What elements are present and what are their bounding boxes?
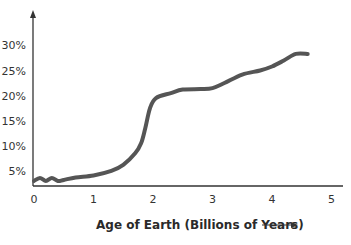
chart: 5%10%15%20%25%30% 012345 Age of Earth (B… (0, 0, 351, 245)
y-tick-label: 10% (2, 140, 26, 153)
y-axis-arrow-icon (30, 10, 36, 18)
y-tick-label: 5% (9, 165, 26, 178)
y-tick-label: 30% (2, 39, 26, 52)
y-tick-label: 25% (2, 65, 26, 78)
x-tick-label: 3 (209, 193, 216, 206)
x-tick-labels: 012345 (31, 193, 336, 206)
x-tick-label: 5 (328, 193, 335, 206)
x-tick-label: 2 (150, 193, 157, 206)
y-tick-labels: 5%10%15%20%25%30% (2, 39, 26, 178)
x-tick-label: 1 (90, 193, 97, 206)
x-tick-label: 0 (31, 193, 38, 206)
y-axis (30, 10, 36, 186)
y-tick-label: 20% (2, 90, 26, 103)
x-tick-label: 4 (269, 193, 276, 206)
data-line (34, 53, 308, 181)
y-tick-label: 15% (2, 115, 26, 128)
